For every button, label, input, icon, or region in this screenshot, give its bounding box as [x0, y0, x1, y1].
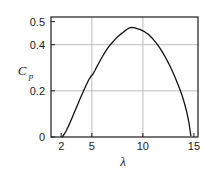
y-tick-label: 0.4 — [30, 39, 45, 51]
y-axis-title: C — [18, 63, 27, 78]
y-axis-title-subscript: p — [28, 71, 34, 81]
x-tick-label: 2 — [58, 140, 64, 152]
y-tick-label: 0.5 — [30, 16, 45, 28]
y-tick-label: 0.2 — [30, 85, 45, 97]
cp-lambda-chart: 251015 00.20.40.5 λ C p — [0, 0, 212, 172]
y-tick-label: 0 — [39, 131, 45, 143]
x-tick-label: 10 — [137, 140, 149, 152]
x-tick-label: 5 — [89, 140, 95, 152]
x-axis-title: λ — [119, 154, 126, 169]
chart-figure: 251015 00.20.40.5 λ C p — [0, 0, 212, 172]
x-tick-label: 15 — [188, 140, 200, 152]
